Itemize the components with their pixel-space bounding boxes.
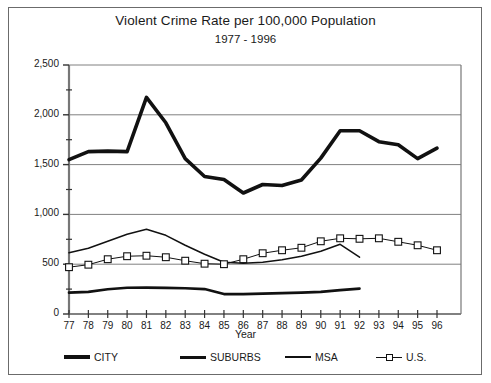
- legend-line-marker-icon-us: [376, 351, 402, 363]
- legend-line-icon-city: [64, 351, 90, 363]
- y-tick-label-2500: 2,500: [17, 58, 59, 69]
- legend-label-us: U.S.: [406, 351, 426, 363]
- y-tick-label-0: 0: [17, 307, 59, 318]
- chart-legend: CITY SUBURBS MSA U.S.: [0, 349, 491, 371]
- chart-subtitle: 1977 - 1996: [0, 31, 491, 47]
- y-tick-label-1000: 1,000: [17, 207, 59, 218]
- title-block: Violent Crime Rate per 100,000 Populatio…: [0, 12, 491, 47]
- legend-line-icon-msa: [285, 351, 311, 363]
- legend-label-suburbs: SUBURBS: [210, 351, 261, 363]
- legend-label-city: CITY: [94, 351, 118, 363]
- y-tick-label-1500: 1,500: [17, 158, 59, 169]
- legend-entry-us: U.S.: [376, 349, 426, 365]
- y-tick-label-500: 500: [17, 257, 59, 268]
- x-axis-title: Year: [0, 328, 491, 340]
- chart-title: Violent Crime Rate per 100,000 Populatio…: [0, 12, 491, 29]
- legend-line-icon-suburbs: [180, 351, 206, 363]
- y-tick-label-2000: 2,000: [17, 108, 59, 119]
- chart-figure: Violent Crime Rate per 100,000 Populatio…: [0, 0, 491, 383]
- legend-entry-city: CITY: [64, 349, 118, 365]
- legend-label-msa: MSA: [315, 351, 338, 363]
- legend-entry-msa: MSA: [285, 349, 338, 365]
- legend-entry-suburbs: SUBURBS: [180, 349, 261, 365]
